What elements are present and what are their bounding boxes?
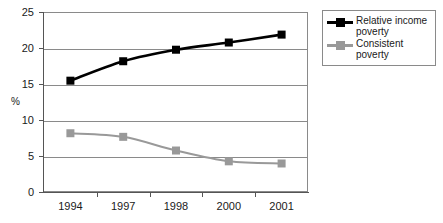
x-tick-label: 2001: [255, 201, 308, 212]
data-point-marker: [66, 77, 74, 85]
x-tick-mark: [150, 193, 151, 197]
y-tick-mark: [39, 48, 43, 49]
y-tick-mark: [39, 12, 43, 13]
data-point-marker: [225, 39, 233, 47]
legend-entry-1[interactable]: Relative income poverty: [327, 15, 431, 37]
series-line: [70, 35, 281, 81]
y-tick-label: 15: [8, 79, 34, 90]
data-point-marker: [278, 31, 286, 39]
legend-entry-2[interactable]: Consistent poverty: [327, 38, 431, 60]
data-point-marker: [278, 159, 286, 167]
y-tick-label: 25: [8, 7, 34, 18]
x-tick-label: 1997: [97, 201, 150, 212]
y-tick-label: 5: [8, 151, 34, 162]
data-point-marker: [225, 157, 233, 165]
x-tick-label: 2000: [202, 201, 255, 212]
series-1: [66, 31, 285, 85]
y-tick-mark: [39, 84, 43, 85]
data-point-marker: [119, 57, 127, 65]
legend-label: Relative income poverty: [356, 15, 431, 37]
y-tick-label: 10: [8, 115, 34, 126]
x-tick-label: 1998: [150, 201, 203, 212]
data-point-marker: [172, 46, 180, 54]
x-tick-mark: [255, 193, 256, 197]
y-tick-mark: [39, 120, 43, 121]
plot-area: [44, 12, 308, 192]
x-tick-label: 1994: [44, 201, 97, 212]
x-axis-line: [43, 192, 309, 193]
y-axis-title: %: [11, 96, 20, 107]
legend-marker: [336, 18, 345, 27]
y-tick-mark: [39, 156, 43, 157]
chart-legend: Relative income povertyConsistent povert…: [322, 10, 436, 66]
series-2: [66, 129, 285, 167]
legend-swatch-icon: [327, 16, 353, 28]
series-layer: [44, 13, 308, 193]
x-tick-mark: [97, 193, 98, 197]
legend-swatch-icon: [327, 39, 353, 51]
data-point-marker: [172, 147, 180, 155]
data-point-marker: [119, 133, 127, 141]
poverty-line-chart: % 0510152025 19941997199820002001 Relati…: [0, 0, 443, 223]
x-tick-mark: [202, 193, 203, 197]
y-tick-label: 0: [8, 187, 34, 198]
y-tick-label: 20: [8, 43, 34, 54]
legend-label: Consistent poverty: [356, 38, 431, 60]
legend-marker: [336, 41, 345, 50]
data-point-marker: [66, 129, 74, 137]
